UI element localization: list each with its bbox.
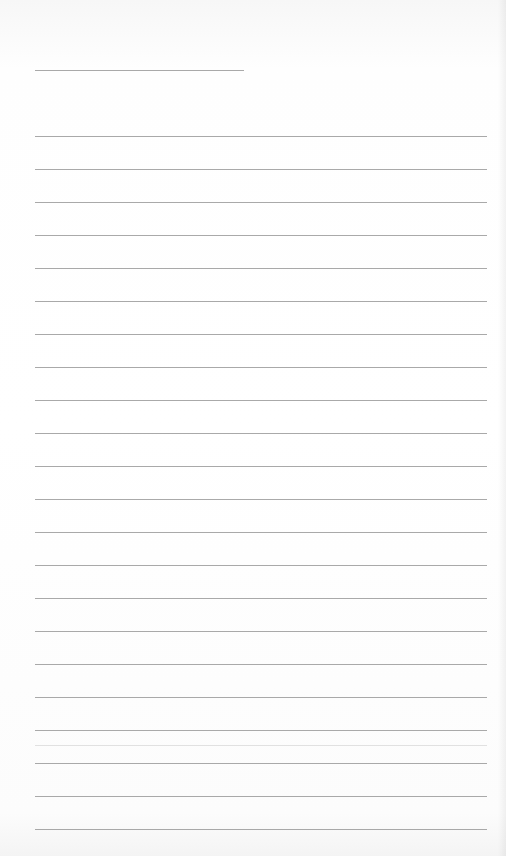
writing-line [35,169,487,170]
writing-line [35,400,487,401]
writing-line [35,763,487,764]
writing-line [35,367,487,368]
writing-line [35,334,487,335]
writing-line [35,730,487,731]
writing-line [35,235,487,236]
page-edge-shadow [498,0,506,856]
faint-bleed-line [35,745,487,746]
writing-line [35,499,487,500]
name-line [35,70,244,71]
writing-line [35,829,487,830]
writing-line [35,466,487,467]
writing-line [35,631,487,632]
writing-line [35,433,487,434]
writing-line [35,268,487,269]
writing-line [35,565,487,566]
writing-line [35,796,487,797]
writing-line [35,598,487,599]
writing-line [35,532,487,533]
writing-line [35,301,487,302]
writing-line [35,664,487,665]
writing-line [35,202,487,203]
writing-line [35,697,487,698]
lined-paper-page [0,0,506,856]
writing-line [35,136,487,137]
